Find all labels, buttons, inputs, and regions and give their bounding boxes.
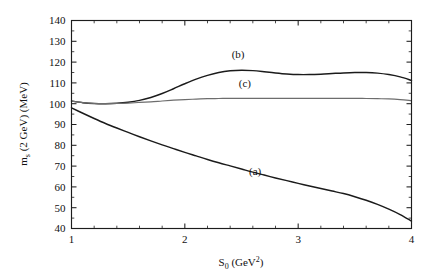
x-tick-label: 3 [295,233,301,245]
curve-label-c: (c) [239,77,252,90]
figure-root: 405060708090100110120130140 1234 (a)(b)(… [0,0,432,275]
y-tick-label: 100 [49,98,66,110]
x-tick-label: 1 [69,233,75,245]
y-tick-label: 120 [49,56,66,68]
y-tick-label: 130 [49,35,66,47]
y-tick-label: 40 [55,222,67,234]
y-tick-label: 110 [49,77,66,89]
y-tick-label: 60 [55,181,67,193]
y-tick-label: 70 [55,160,67,172]
y-tick-label: 50 [55,202,67,214]
curve-label-b: (b) [232,48,245,61]
x-tick-label: 4 [409,233,415,245]
curve-label-a: (a) [249,165,262,178]
chart-canvas: 405060708090100110120130140 1234 (a)(b)(… [0,0,432,275]
y-tick-label: 90 [55,118,67,130]
y-tick-label: 80 [55,139,67,151]
y-tick-label: 140 [49,14,66,26]
x-tick-label: 2 [182,233,188,245]
